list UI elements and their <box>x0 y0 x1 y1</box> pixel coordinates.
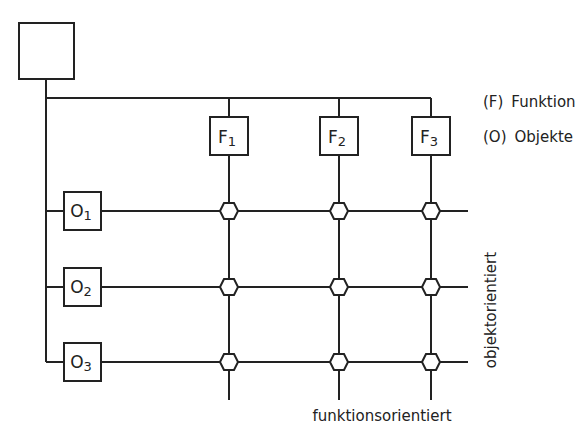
node-o1-f2 <box>330 203 348 219</box>
matrix-diagram: F1F2F3 O1O2O3 (F)Funktion (O)Objekte fun… <box>0 0 586 442</box>
node-o3-f1 <box>220 354 238 370</box>
legend-object: (O)Objekte <box>483 128 573 146</box>
node-o1-f1 <box>220 203 238 219</box>
node-o2-f1 <box>220 279 238 295</box>
axis-label-functional: funktionsorientiert <box>312 407 451 425</box>
node-o3-f2 <box>330 354 348 370</box>
node-o3-f3 <box>422 354 440 370</box>
axis-label-object: objektorientiert <box>482 252 500 368</box>
node-o1-f3 <box>422 203 440 219</box>
root-box <box>19 23 74 79</box>
node-o2-f2 <box>330 279 348 295</box>
node-o2-f3 <box>422 279 440 295</box>
legend-function: (F)Funktion <box>483 93 576 111</box>
